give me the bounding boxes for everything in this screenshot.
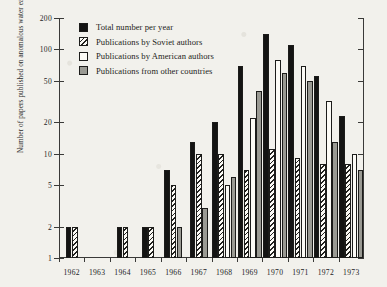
bar-other-1967	[202, 208, 208, 258]
bar-soviet-1973	[345, 164, 351, 258]
x-tick-label-1970: 1970	[267, 268, 283, 277]
bar-soviet-1972	[320, 164, 326, 258]
bar-american-1968	[225, 185, 231, 258]
anomalous-water-publications-chart: Number of papers published on anomalous …	[0, 0, 387, 287]
x-tick-1967	[186, 258, 187, 262]
bar-soviet-1964	[123, 227, 129, 258]
bar-group-1971	[288, 18, 313, 258]
x-tick-1963	[84, 258, 85, 262]
x-tick-1971	[288, 258, 289, 262]
x-tick-1968	[212, 258, 213, 262]
bar-other-1968	[231, 177, 237, 258]
bar-total-1971	[288, 45, 294, 258]
bar-soviet-1971	[295, 158, 301, 258]
x-tick-label-1965: 1965	[140, 268, 156, 277]
bar-total-1967	[190, 142, 196, 258]
x-tick-1964	[110, 258, 111, 262]
bar-soviet-1968	[218, 154, 224, 258]
bar-other-1969	[256, 91, 262, 258]
bar-american-1972	[326, 101, 332, 258]
bar-total-1962	[66, 227, 72, 258]
y-tick-label-200: 200	[40, 14, 52, 23]
legend-label-total: Total number per year	[96, 22, 173, 32]
bar-soviet-1962	[72, 227, 78, 258]
legend-label-american: Publications by American authors	[96, 51, 214, 61]
bar-other-1966	[177, 227, 183, 258]
x-tick-1970	[262, 258, 263, 262]
chart-legend: Total number per yearPublications by Sov…	[79, 20, 279, 78]
x-tick-label-1963: 1963	[89, 268, 105, 277]
x-tick-1973	[339, 258, 340, 262]
bar-american-1970	[275, 60, 281, 258]
x-tick-1965	[135, 258, 136, 262]
y-tick-label-100: 100	[40, 45, 52, 54]
x-tick-1966	[161, 258, 162, 262]
legend-swatch-total-icon	[79, 23, 88, 32]
bar-total-1968	[212, 122, 218, 258]
legend-item-total: Total number per year	[79, 20, 279, 35]
y-axis-title-text: Number of papers published on anomalous …	[17, 0, 25, 153]
legend-label-other: Publications from other countries	[96, 66, 212, 76]
legend-label-soviet: Publications by Soviet authors	[96, 37, 202, 47]
legend-item-other: Publications from other countries	[79, 64, 279, 79]
bar-other-1970	[282, 73, 288, 258]
y-tick-label-1: 1	[48, 254, 52, 263]
x-tick-1972	[313, 258, 314, 262]
bar-other-1971	[307, 81, 313, 258]
y-tick-label-20: 20	[44, 118, 52, 127]
bar-american-1971	[301, 66, 307, 258]
legend-swatch-other-icon	[79, 66, 88, 75]
y-tick-label-5: 5	[48, 181, 52, 190]
y-tick-label-10: 10	[44, 149, 52, 158]
bar-soviet-1967	[196, 154, 202, 258]
x-tick-label-1969: 1969	[241, 268, 257, 277]
bar-soviet-1970	[269, 149, 275, 258]
x-tick-1969	[237, 258, 238, 262]
bar-total-1972	[314, 76, 320, 258]
legend-swatch-soviet-icon	[79, 37, 88, 46]
bar-total-1969	[238, 66, 244, 258]
y-tick-label-50: 50	[44, 76, 52, 85]
bar-group-1973	[339, 18, 364, 258]
bar-total-1966	[164, 170, 170, 258]
bar-american-1969	[250, 118, 256, 258]
bar-soviet-1965	[148, 227, 154, 258]
bar-other-1973	[358, 170, 364, 258]
x-tick-label-1964: 1964	[114, 268, 130, 277]
x-tick-label-1967: 1967	[191, 268, 207, 277]
bar-group-1972	[313, 18, 338, 258]
legend-item-american: Publications by American authors	[79, 49, 279, 64]
y-tick-label-2: 2	[48, 222, 52, 231]
x-tick-label-1968: 1968	[216, 268, 232, 277]
bar-soviet-1969	[244, 170, 250, 258]
x-tick-label-1971: 1971	[292, 268, 308, 277]
bar-other-1972	[332, 142, 338, 258]
bar-american-1973	[352, 154, 358, 258]
bar-total-1965	[142, 227, 148, 258]
legend-item-soviet: Publications by Soviet authors	[79, 35, 279, 50]
legend-swatch-american-icon	[79, 52, 88, 61]
bar-soviet-1966	[171, 185, 177, 258]
y-tick-right-1	[358, 258, 364, 259]
y-axis-title: Number of papers published on anomalous …	[17, 0, 25, 153]
x-tick-label-1972: 1972	[318, 268, 334, 277]
bar-total-1973	[339, 116, 345, 258]
bar-total-1964	[117, 227, 123, 258]
x-tick-label-1973: 1973	[343, 268, 359, 277]
x-tick-label-1966: 1966	[165, 268, 181, 277]
x-tick-label-1962: 1962	[64, 268, 80, 277]
x-tick-1962	[59, 258, 60, 262]
